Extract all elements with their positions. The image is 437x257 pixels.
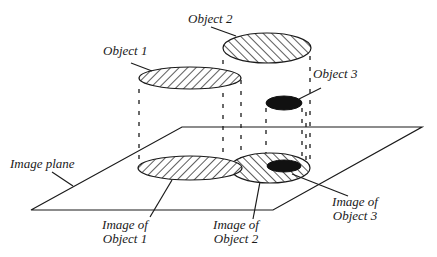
object1-label: Object 1 bbox=[103, 44, 147, 58]
image-of-object1-ellipse bbox=[138, 156, 242, 180]
projection-diagram: Object 1 Object 2 Object 3 Image plane I… bbox=[0, 0, 437, 257]
image-of-object2-line2: Object 2 bbox=[208, 232, 264, 246]
image-of-object3-label: Image of Object 3 bbox=[327, 195, 383, 223]
object1-ellipse bbox=[139, 67, 241, 89]
image-of-object3-line2: Object 3 bbox=[327, 209, 383, 223]
image-of-object3-ellipse bbox=[267, 160, 301, 172]
object3-label: Object 3 bbox=[313, 67, 357, 81]
image-of-object1-line1: Image of bbox=[97, 218, 153, 232]
object2-ellipse bbox=[223, 33, 311, 63]
image-plane-label: Image plane bbox=[10, 157, 75, 171]
image-of-object2-line1: Image of bbox=[208, 218, 264, 232]
object3-ellipse bbox=[266, 96, 302, 110]
object2-label: Object 2 bbox=[188, 12, 232, 26]
image-of-object3-line1: Image of bbox=[327, 195, 383, 209]
image-of-object1-label: Image of Object 1 bbox=[97, 218, 153, 246]
image-of-object2-label: Image of Object 2 bbox=[208, 218, 264, 246]
image-of-object1-line2: Object 1 bbox=[97, 232, 153, 246]
